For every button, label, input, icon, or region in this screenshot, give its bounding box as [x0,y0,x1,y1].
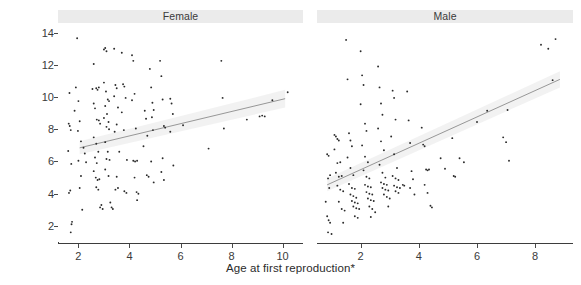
data-point [338,140,340,142]
data-point [182,124,184,126]
data-point [117,107,119,109]
data-point [136,191,138,193]
data-point [160,171,162,173]
panel-male: Male [317,10,573,242]
data-point [71,223,73,225]
data-point [94,107,96,109]
y-tick-label: 10 [32,91,54,103]
data-point [370,216,372,218]
data-point [328,187,330,189]
x-tick-mark [419,244,420,248]
data-point [136,160,138,162]
data-point [360,50,362,52]
data-point [95,186,97,188]
data-point [220,60,222,62]
data-point [100,204,102,206]
data-point [69,92,71,94]
scatter-canvas-male [317,23,573,242]
data-point [380,181,382,183]
data-point [261,115,263,117]
data-point [104,169,106,171]
x-axis-title: Age at first reproduction* [0,262,581,274]
data-point [145,118,147,120]
data-point [327,231,329,233]
data-point [377,66,379,68]
data-point [409,142,411,144]
data-point [366,176,368,178]
data-point [123,129,125,131]
data-point [411,170,413,172]
x-tick-mark [232,244,233,248]
data-point [93,63,95,65]
data-point [393,97,395,99]
y-tick-label: 4 [32,188,54,200]
data-point [113,95,115,97]
data-point [93,136,95,138]
data-point [329,174,331,176]
x-tick-mark [535,244,536,248]
data-point [136,199,138,201]
data-point [361,74,363,76]
data-point [360,103,362,105]
data-point [108,100,110,102]
data-point [150,161,152,163]
data-point [97,89,99,91]
y-axis-tick-labels: 2468101214 [30,0,54,285]
data-point [70,129,72,131]
data-point [424,145,426,147]
data-point [114,131,116,133]
data-point [421,127,423,129]
data-point [357,202,359,204]
data-point [107,99,109,101]
data-point [382,187,384,189]
x-tick-label: 4 [126,250,132,262]
data-point [108,121,110,123]
data-point [348,132,350,134]
data-point [451,137,453,139]
data-point [459,157,461,159]
y-tick-label: 8 [32,123,54,135]
data-point [104,105,106,107]
data-point [336,185,338,187]
data-point [367,198,369,200]
data-point [364,123,366,125]
data-point [357,217,359,219]
x-tick-mark [129,244,130,248]
data-point [81,209,83,211]
regression-line [80,99,285,148]
data-point [116,87,118,89]
data-point [121,111,123,113]
data-point [151,102,153,104]
data-point [287,91,289,93]
data-point [118,151,120,153]
data-point [395,177,397,179]
data-point [463,161,465,163]
data-point [334,148,336,150]
x-tick-mark [283,244,284,248]
data-point [327,177,329,179]
data-point [84,152,86,154]
data-point [143,145,145,147]
data-point [354,188,356,190]
data-point [502,136,504,138]
data-point [338,201,340,203]
data-point [486,110,488,112]
data-point [77,100,79,102]
data-point [97,189,99,191]
data-point [163,125,165,127]
data-point [350,140,352,142]
data-point [116,176,118,178]
data-point [70,231,72,233]
data-point [384,177,386,179]
data-point [454,176,456,178]
data-point [364,156,366,158]
x-tick-label: 10 [276,250,288,262]
data-point [392,175,394,177]
data-point [95,177,97,179]
data-point [331,233,333,235]
data-point [393,185,395,187]
data-point [398,179,400,181]
data-point [366,191,368,193]
data-point [384,189,386,191]
data-point [395,119,397,121]
